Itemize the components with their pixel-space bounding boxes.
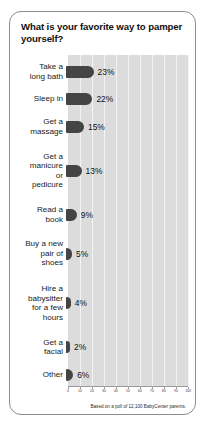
bar-value-label: 9% bbox=[81, 210, 93, 220]
x-axis: 0102030405060708090100 bbox=[68, 386, 188, 398]
chart-row: Buy a new pair of shoes5% bbox=[11, 231, 196, 275]
bar bbox=[66, 248, 72, 260]
bar-zone: 13% bbox=[66, 143, 196, 198]
bar-zone: 9% bbox=[66, 198, 196, 231]
bar-zone: 6% bbox=[66, 364, 196, 386]
chart-row: Hire a babysitter for a few hours4% bbox=[11, 276, 196, 331]
category-label: Read a book bbox=[11, 205, 66, 224]
axis-tick-label: 50 bbox=[126, 389, 130, 393]
axis-tick-label: 0 bbox=[67, 389, 69, 393]
bar bbox=[66, 209, 77, 221]
bar-value-label: 23% bbox=[98, 67, 115, 77]
bar-zone: 2% bbox=[66, 331, 196, 364]
chart-row: Get a massage15% bbox=[11, 110, 196, 143]
axis-tick-label: 70 bbox=[150, 389, 154, 393]
category-label: Buy a new pair of shoes bbox=[11, 239, 66, 268]
bar bbox=[66, 121, 84, 133]
axis-tick-label: 90 bbox=[174, 389, 178, 393]
category-label: Take a long bath bbox=[11, 62, 66, 81]
axis-tick-label: 30 bbox=[102, 389, 106, 393]
bar-value-label: 13% bbox=[86, 166, 103, 176]
bar-value-label: 4% bbox=[75, 298, 87, 308]
bar bbox=[66, 369, 73, 381]
bar bbox=[66, 93, 92, 105]
category-label: Sleep in bbox=[11, 94, 66, 104]
axis-tick-label: 20 bbox=[90, 389, 94, 393]
bar-rows: Take a long bath23%Sleep in22%Get a mass… bbox=[11, 55, 196, 386]
bar-zone: 4% bbox=[66, 276, 196, 331]
bar-zone: 5% bbox=[66, 231, 196, 275]
bar bbox=[66, 165, 82, 177]
page-title: What is your favorite way to pamper your… bbox=[21, 21, 184, 46]
category-label: Get a facial bbox=[11, 338, 66, 357]
bar bbox=[66, 66, 94, 78]
axis-tick-label: 80 bbox=[162, 389, 166, 393]
category-label: Hire a babysitter for a few hours bbox=[11, 284, 66, 322]
bar-zone: 22% bbox=[66, 88, 196, 110]
category-label: Get a manicure or pedicure bbox=[11, 152, 66, 190]
axis-tick-label: 10 bbox=[78, 389, 82, 393]
bar-chart: Take a long bath23%Sleep in22%Get a mass… bbox=[11, 55, 196, 400]
chart-row: Get a facial2% bbox=[11, 331, 196, 364]
axis-tick-label: 60 bbox=[138, 389, 142, 393]
chart-footnote: Based on a poll of 12,100 BabyCenter par… bbox=[11, 404, 186, 409]
bar-value-label: 6% bbox=[77, 370, 89, 380]
bar bbox=[66, 341, 70, 353]
poll-card: What is your favorite way to pamper your… bbox=[9, 11, 196, 415]
bar-value-label: 15% bbox=[88, 122, 105, 132]
chart-row: Take a long bath23% bbox=[11, 55, 196, 88]
bar-zone: 23% bbox=[66, 55, 196, 88]
category-label: Other bbox=[11, 370, 66, 380]
category-label: Get a massage bbox=[11, 117, 66, 136]
chart-row: Sleep in22% bbox=[11, 88, 196, 110]
bar bbox=[66, 297, 71, 309]
bar-value-label: 5% bbox=[76, 249, 88, 259]
bar-zone: 15% bbox=[66, 110, 196, 143]
axis-tick-label: 40 bbox=[114, 389, 118, 393]
bar-value-label: 2% bbox=[74, 342, 86, 352]
chart-row: Other6% bbox=[11, 364, 196, 386]
axis-tick-label: 100 bbox=[185, 389, 191, 393]
chart-row: Get a manicure or pedicure13% bbox=[11, 143, 196, 198]
bar-value-label: 22% bbox=[96, 94, 113, 104]
chart-row: Read a book9% bbox=[11, 198, 196, 231]
